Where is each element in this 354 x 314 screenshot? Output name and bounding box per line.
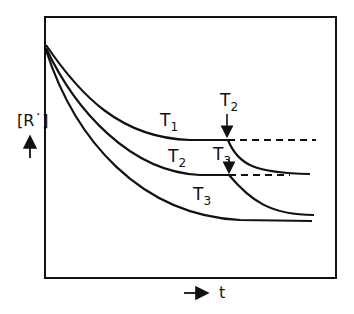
switch-label-to-t2: T2	[219, 90, 238, 114]
switch-label-to-t3: T3	[212, 144, 231, 168]
decay-diagram: T1 T2 T3 T2 T3 [R˙] t	[0, 0, 354, 314]
curve-t2-switch-to-t3	[229, 175, 314, 215]
curve-t1	[46, 45, 228, 140]
x-axis-label: t	[219, 283, 225, 302]
y-axis-label: [R˙]	[17, 111, 49, 130]
label-t3: T3	[192, 184, 211, 208]
label-t2: T2	[167, 146, 186, 170]
curve-t3	[46, 50, 312, 221]
plot-frame	[45, 17, 336, 278]
curve-t1-switch-to-t2	[228, 140, 310, 174]
label-t1: T1	[159, 110, 178, 134]
